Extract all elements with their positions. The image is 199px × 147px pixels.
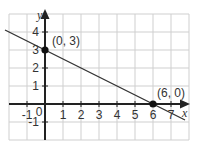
x-tick-label: 2 [78,108,85,122]
point-label-0-3: (0, 3) [52,34,80,48]
point-6-0 [149,100,156,107]
x-tick-label: 3 [96,108,103,122]
point-label-6-0: (6, 0) [157,86,185,100]
x-tick-label: 4 [114,108,121,122]
y-tick-label: 4 [32,25,39,39]
y-axis-label: y [36,8,43,22]
y-axis [41,9,50,140]
x-tick-label: 5 [132,108,139,122]
line-series [5,30,185,120]
point-0-3 [41,46,48,53]
coordinate-plane: -1 1 2 3 4 5 6 7 0 -1 1 2 3 4 y x (0, 3)… [0,0,199,147]
x-tick-label: 1 [60,108,67,122]
y-tick-label: -1 [28,115,39,129]
y-tick-label: 2 [32,61,39,75]
x-tick-label: 6 [150,108,157,122]
y-tick-label: 1 [32,79,39,93]
